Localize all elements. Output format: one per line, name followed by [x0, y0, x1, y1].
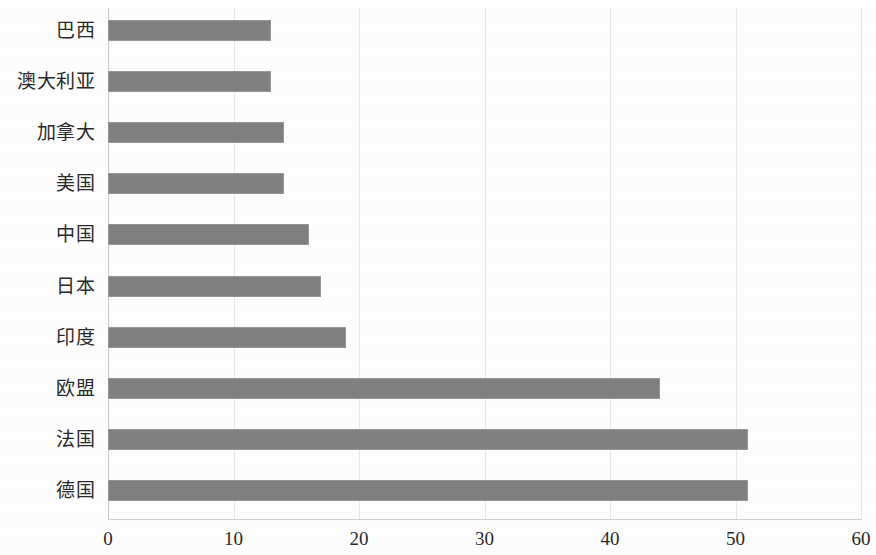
- bar-row: [108, 366, 861, 417]
- y-axis-label-6: 印度: [0, 327, 95, 348]
- bar-row: [108, 212, 861, 263]
- y-axis-label-1: 澳大利亚: [0, 71, 95, 92]
- y-axis-label-4: 中国: [0, 224, 95, 245]
- y-axis-label-2: 加拿大: [0, 122, 95, 143]
- gridline-60: [861, 8, 862, 519]
- y-axis-label-7: 欧盟: [0, 378, 95, 399]
- bar-row: [108, 8, 861, 59]
- x-tick-label-40: 40: [580, 527, 640, 551]
- bar-row: [108, 59, 861, 110]
- bar[interactable]: [108, 20, 271, 41]
- y-axis-label-8: 法国: [0, 429, 95, 450]
- y-axis-label-0: 巴西: [0, 20, 95, 41]
- y-axis-label-9: 德国: [0, 480, 95, 501]
- bar[interactable]: [108, 122, 284, 143]
- bar[interactable]: [108, 327, 346, 348]
- plot-area: [108, 8, 861, 519]
- x-axis-line: [108, 519, 862, 520]
- bar-row: [108, 110, 861, 161]
- bar-row: [108, 264, 861, 315]
- x-tick-label-50: 50: [706, 527, 766, 551]
- x-tick-label-0: 0: [78, 527, 138, 551]
- bar[interactable]: [108, 224, 309, 245]
- x-tick-label-60: 60: [831, 527, 876, 551]
- bar[interactable]: [108, 173, 284, 194]
- bar[interactable]: [108, 276, 321, 297]
- x-tick-label-10: 10: [204, 527, 264, 551]
- y-axis-label-3: 美国: [0, 173, 95, 194]
- bar-chart: 巴西澳大利亚加拿大美国中国日本印度欧盟法国德国 0102030405060: [0, 0, 876, 555]
- bar-row: [108, 161, 861, 212]
- y-axis-label-5: 日本: [0, 276, 95, 297]
- bar-row: [108, 417, 861, 468]
- bar-row: [108, 315, 861, 366]
- bar[interactable]: [108, 378, 660, 399]
- bar[interactable]: [108, 71, 271, 92]
- bar-row: [108, 468, 861, 519]
- x-tick-label-30: 30: [455, 527, 515, 551]
- x-tick-label-20: 20: [329, 527, 389, 551]
- bar[interactable]: [108, 480, 748, 501]
- bar[interactable]: [108, 429, 748, 450]
